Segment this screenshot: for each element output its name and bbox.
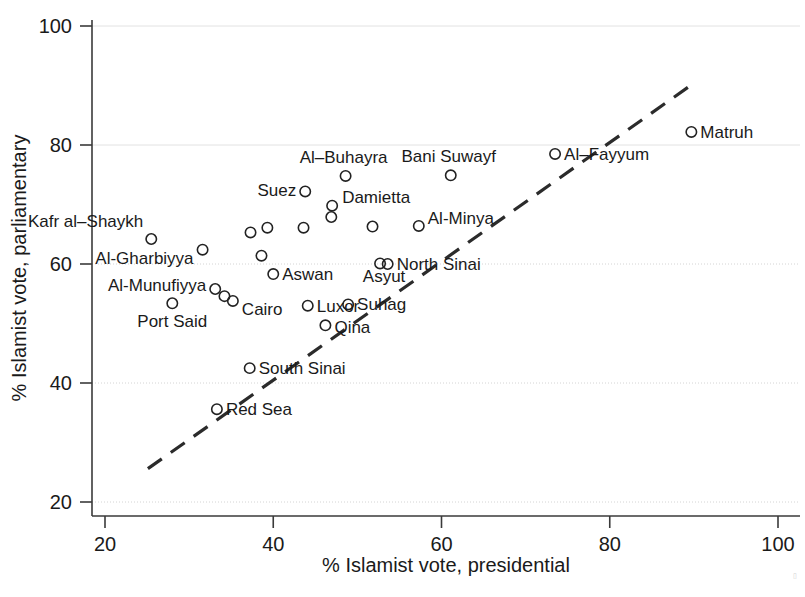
data-point-marker <box>268 269 278 279</box>
data-point-marker <box>244 363 254 373</box>
data-point-marker <box>446 170 456 180</box>
data-point-marker <box>300 186 310 196</box>
corner-artifact: ▯ <box>793 572 797 579</box>
data-point-marker <box>210 284 220 294</box>
data-point-marker <box>550 149 560 159</box>
y-tick-label-20: 20 <box>50 491 72 513</box>
x-axis-title: % Islamist vote, presidential <box>322 554 570 576</box>
data-point-label: Port Said <box>137 312 207 331</box>
data-point-label: Suhag <box>357 295 406 314</box>
data-point-marker <box>262 223 272 233</box>
data-point-label: Al-Gharbiyya <box>95 249 194 268</box>
data-point-marker <box>414 221 424 231</box>
y-tick-label-60: 60 <box>50 253 72 275</box>
data-point-label: Al–Buhayra <box>300 148 388 167</box>
y-axis-ticks-group: 20406080100 <box>39 15 92 513</box>
data-point-marker <box>146 234 156 244</box>
x-tick-label-20: 20 <box>94 533 116 555</box>
data-point-label: Matruh <box>700 123 753 142</box>
data-point-marker <box>303 300 313 310</box>
data-point-marker <box>298 223 308 233</box>
x-tick-label-60: 60 <box>430 533 452 555</box>
data-point-marker <box>197 245 207 255</box>
data-point-marker <box>256 250 266 260</box>
data-point-marker <box>212 404 222 414</box>
data-point-label: Al–Fayyum <box>564 145 649 164</box>
data-point-label: North Sinai <box>397 255 481 274</box>
data-point-marker <box>167 298 177 308</box>
data-point-label: Kafr al–Shaykh <box>28 212 143 231</box>
y-axis-title: % Islamist vote, parliamentary <box>8 135 30 402</box>
plot-canvas: 20406080100 20406080100 Kafr al–ShaykhPo… <box>0 0 805 597</box>
y-tick-label-40: 40 <box>50 372 72 394</box>
data-point-label: Red Sea <box>226 400 293 419</box>
data-point-marker <box>686 127 696 137</box>
y-tick-label-80: 80 <box>50 134 72 156</box>
data-point-label: Al-Minya <box>428 209 495 228</box>
x-tick-label-80: 80 <box>599 533 621 555</box>
data-point-marker <box>340 171 350 181</box>
x-axis-ticks-group: 20406080100 <box>94 516 795 555</box>
data-point-marker <box>320 320 330 330</box>
data-point-label: Qina <box>334 318 370 337</box>
data-point-marker <box>245 227 255 237</box>
data-point-label: Luxor <box>317 297 360 316</box>
x-tick-label-40: 40 <box>262 533 284 555</box>
data-point-label: Damietta <box>342 188 411 207</box>
data-point-label: Cairo <box>242 300 283 319</box>
data-point-marker <box>327 200 337 210</box>
scatter-plot-figure: 20406080100 20406080100 Kafr al–ShaykhPo… <box>0 0 805 597</box>
data-point-marker <box>326 212 336 222</box>
data-point-label: Suez <box>257 181 296 200</box>
data-point-label: Al-Munufiyya <box>108 276 207 295</box>
data-point-marker <box>367 221 377 231</box>
y-tick-label-100: 100 <box>39 15 72 37</box>
data-point-label: South Sinai <box>259 359 346 378</box>
data-point-label: Bani Suwayf <box>402 147 497 166</box>
data-point-labels-group: Kafr al–ShaykhPort SaidAl-GharbiyyaAl-Mu… <box>28 123 753 419</box>
x-tick-label-100: 100 <box>761 533 794 555</box>
data-point-marker <box>228 296 238 306</box>
data-point-label: Aswan <box>282 265 333 284</box>
